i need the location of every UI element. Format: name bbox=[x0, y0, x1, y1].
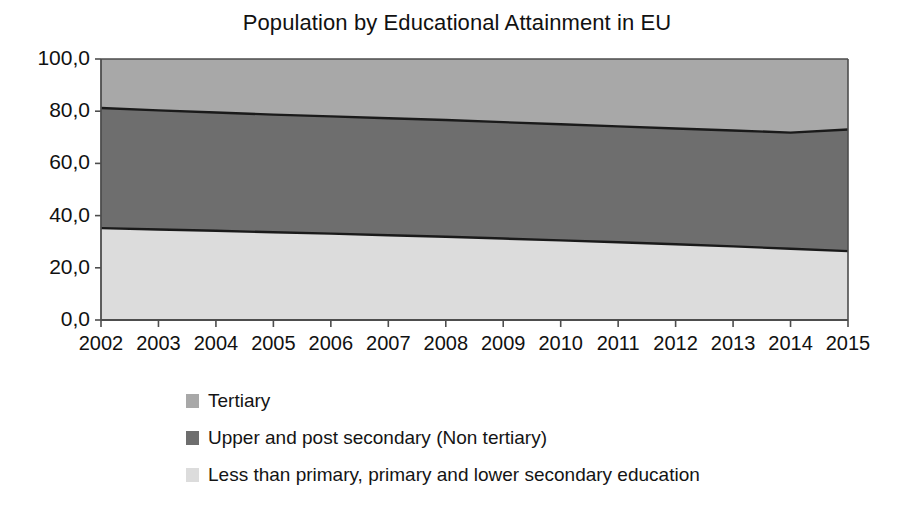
y-axis-tick-label: 100,0 bbox=[37, 46, 90, 70]
legend-swatch-less-than-primary bbox=[186, 468, 199, 482]
y-axis-tick-label: 20,0 bbox=[49, 255, 90, 279]
y-axis-tick-label: 80,0 bbox=[49, 98, 90, 122]
chart-container: Population by Educational Attainment in … bbox=[0, 0, 914, 516]
plot-area: 0,020,040,060,080,0100,0 200220032004200… bbox=[0, 0, 914, 370]
legend-item-label: Tertiary bbox=[208, 391, 270, 410]
legend-item[interactable]: Less than primary, primary and lower sec… bbox=[186, 456, 886, 493]
y-axis-tick-label: 0,0 bbox=[61, 307, 90, 331]
x-axis-tick-label: 2015 bbox=[813, 332, 883, 355]
legend-swatch-upper-post-secondary bbox=[186, 431, 199, 445]
y-axis-tick-label: 40,0 bbox=[49, 203, 90, 227]
legend-swatch-tertiary bbox=[186, 394, 199, 408]
chart-plot-svg bbox=[0, 0, 914, 370]
y-axis-tick-label: 60,0 bbox=[49, 150, 90, 174]
legend-item-label: Upper and post secondary (Non tertiary) bbox=[208, 428, 547, 447]
legend-item[interactable]: Tertiary bbox=[186, 382, 886, 419]
chart-legend: TertiaryUpper and post secondary (Non te… bbox=[186, 382, 886, 493]
legend-item-label: Less than primary, primary and lower sec… bbox=[208, 465, 700, 484]
legend-item[interactable]: Upper and post secondary (Non tertiary) bbox=[186, 419, 886, 456]
area-bands bbox=[101, 59, 848, 320]
